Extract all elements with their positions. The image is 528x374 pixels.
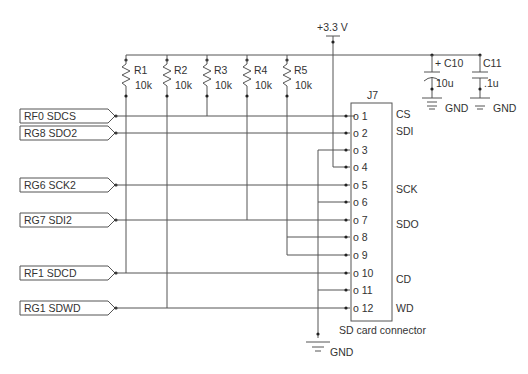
cap-polarity: + [435, 57, 441, 69]
connector-ref: J7 [367, 89, 378, 101]
cap-value: 10u [436, 77, 454, 89]
pin-num: o 4 [353, 161, 368, 173]
cap-value: .1u [484, 77, 499, 89]
svg-text:RG6 SCK2: RG6 SCK2 [24, 179, 76, 191]
ground-label: GND [330, 346, 354, 358]
pin-num: o 10 [353, 267, 374, 279]
net-label-rg6-sck2: RG6 SCK2 [20, 178, 340, 192]
pin-func-cs: CS [396, 108, 411, 120]
resistor-ref: R2 [174, 64, 188, 76]
resistor-r5: R5 10k [283, 55, 313, 255]
connector-j7: J7 o 1 o 2 o 3 o 4 o 5 o 6 o 7 o 8 o 9 o… [339, 89, 426, 336]
svg-text:RF0 SDCS: RF0 SDCS [24, 110, 76, 122]
pin-func-sdi: SDI [396, 125, 414, 137]
svg-text:RF1 SDCD: RF1 SDCD [24, 267, 77, 279]
svg-text:RG1 SDWD: RG1 SDWD [24, 302, 81, 314]
net-label-rg7-sdi2: RG7 SDI2 [20, 213, 340, 227]
pin-num: o 9 [353, 249, 368, 261]
resistor-ref: R4 [254, 64, 268, 76]
svg-text:RG8 SDO2: RG8 SDO2 [24, 127, 77, 139]
resistor-value: 10k [295, 79, 313, 91]
pin-func-cd: CD [396, 273, 412, 285]
resistor-ref: R1 [134, 64, 148, 76]
resistor-ref: R5 [294, 64, 308, 76]
resistor-value: 10k [215, 79, 233, 91]
resistor-ref: R3 [214, 64, 228, 76]
pin-dots [344, 114, 347, 309]
net-label-rg1-sdwd: RG1 SDWD [20, 301, 340, 315]
pin-num: o 12 [353, 302, 374, 314]
resistor-value: 10k [135, 79, 153, 91]
net-label-rf1-sdcd: RF1 SDCD [20, 266, 340, 280]
schematic: +3.3 V R1 10k R2 10k R3 10k R [0, 0, 528, 374]
pin-num: o 8 [353, 231, 368, 243]
resistor-r3: R3 10k [203, 55, 233, 116]
connector-caption: SD card connector [339, 324, 426, 336]
resistor-value: 10k [255, 79, 273, 91]
ground-symbol: GND [306, 332, 354, 358]
supply-label: +3.3 V [317, 21, 348, 33]
resistor-r2: R2 10k [163, 55, 193, 308]
pin-num: o 6 [353, 196, 368, 208]
resistor-r1: R1 10k [122, 55, 153, 273]
pin-func-sdo: SDO [396, 218, 419, 230]
pin-num: o 11 [353, 284, 373, 296]
supply-3v3: +3.3 V [317, 21, 348, 55]
svg-text:RG7 SDI2: RG7 SDI2 [24, 214, 72, 226]
resistor-value: 10k [175, 79, 193, 91]
ground-label: GND [493, 102, 517, 114]
pin-num: o 7 [353, 214, 368, 226]
pin-num: o 5 [353, 179, 368, 191]
net-label-rg8-sdo2: RG8 SDO2 [20, 126, 340, 140]
capacitor-c11: C11 .1u GND [470, 53, 517, 114]
pin-num: o 3 [353, 144, 368, 156]
pin-func-wd: WD [396, 302, 414, 314]
pin-func-sck: SCK [396, 183, 418, 195]
cap-ref: C11 [483, 57, 502, 69]
capacitor-c10: + C10 10u GND [422, 53, 469, 114]
pin-num: o 2 [353, 127, 368, 139]
resistor-r4: R4 10k [243, 55, 273, 220]
net-label-rf0-sdcs: RF0 SDCS [20, 109, 340, 123]
ground-label: GND [445, 102, 469, 114]
cap-ref: C10 [444, 57, 463, 69]
pin-num: o 1 [353, 110, 368, 122]
